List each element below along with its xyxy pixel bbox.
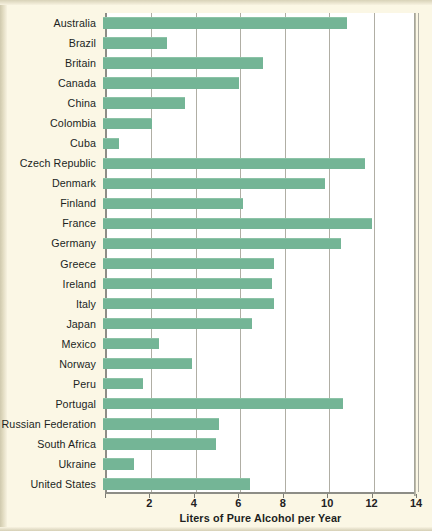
bar-row[interactable]: Peru xyxy=(0,374,432,394)
x-tick-label: 14 xyxy=(410,497,422,509)
bar-row[interactable]: France xyxy=(0,213,432,233)
bar[interactable] xyxy=(103,358,192,369)
bar-row[interactable]: South Africa xyxy=(0,434,432,454)
bar-track xyxy=(101,113,412,133)
x-tick-label: 8 xyxy=(280,497,286,509)
bar[interactable] xyxy=(103,37,167,48)
category-label: Mexico xyxy=(0,338,101,350)
bar-track xyxy=(101,274,412,294)
bar-row[interactable]: Greece xyxy=(0,254,432,274)
bar-row[interactable]: Denmark xyxy=(0,173,432,193)
bar[interactable] xyxy=(103,318,252,329)
category-label: Brazil xyxy=(0,37,101,49)
category-label: Canada xyxy=(0,77,101,89)
bar-track xyxy=(101,394,412,414)
horizontal-bar-chart: AustraliaBrazilBritainCanadaChinaColombi… xyxy=(0,0,432,531)
bar-track xyxy=(101,193,412,213)
x-tick-mark xyxy=(105,494,106,498)
category-label: Greece xyxy=(0,258,101,270)
bar-row[interactable]: Britain xyxy=(0,53,432,73)
category-label: Britain xyxy=(0,57,101,69)
bar-track xyxy=(101,474,412,494)
category-label: South Africa xyxy=(0,438,101,450)
bar-row[interactable]: Brazil xyxy=(0,33,432,53)
x-axis-title: Liters of Pure Alcohol per Year xyxy=(105,512,416,524)
category-label: Ukraine xyxy=(0,458,101,470)
category-label: Norway xyxy=(0,358,101,370)
bar[interactable] xyxy=(103,478,250,489)
bar-track xyxy=(101,374,412,394)
bar-row[interactable]: China xyxy=(0,93,432,113)
bar-track xyxy=(101,294,412,314)
category-label: Finland xyxy=(0,197,101,209)
bar-track xyxy=(101,73,412,93)
x-tick-label: 10 xyxy=(321,497,333,509)
category-label: Italy xyxy=(0,298,101,310)
bar-track xyxy=(101,454,412,474)
bar-row[interactable]: Australia xyxy=(0,13,432,33)
bar-track xyxy=(101,314,412,334)
bar[interactable] xyxy=(103,418,219,429)
bar[interactable] xyxy=(103,97,185,108)
category-label: Ireland xyxy=(0,278,101,290)
bar-track xyxy=(101,133,412,153)
bar-row[interactable]: Germany xyxy=(0,233,432,253)
bar-row[interactable]: Italy xyxy=(0,294,432,314)
bar[interactable] xyxy=(103,338,159,349)
category-label: Germany xyxy=(0,237,101,249)
bar[interactable] xyxy=(103,398,343,409)
category-label: Australia xyxy=(0,17,101,29)
bar-row[interactable]: Ireland xyxy=(0,274,432,294)
bar-row[interactable]: Portugal xyxy=(0,394,432,414)
bar[interactable] xyxy=(103,77,239,88)
bar[interactable] xyxy=(103,118,152,129)
bar-row[interactable]: Canada xyxy=(0,73,432,93)
x-tick-label: 2 xyxy=(146,497,152,509)
bar[interactable] xyxy=(103,258,274,269)
bar[interactable] xyxy=(103,17,347,28)
bar-track xyxy=(101,414,412,434)
bar-track xyxy=(101,13,412,33)
category-label: Cuba xyxy=(0,137,101,149)
category-label: Czech Republic xyxy=(0,157,101,169)
bar-row[interactable]: Mexico xyxy=(0,334,432,354)
bar[interactable] xyxy=(103,238,341,249)
category-label: Russian Federation xyxy=(0,418,101,430)
bar[interactable] xyxy=(103,458,134,469)
bar-track xyxy=(101,434,412,454)
bar[interactable] xyxy=(103,298,274,309)
bar-track xyxy=(101,233,412,253)
bar[interactable] xyxy=(103,158,365,169)
bar-track xyxy=(101,354,412,374)
bar-track xyxy=(101,53,412,73)
category-label: Japan xyxy=(0,318,101,330)
bar-track xyxy=(101,334,412,354)
bar-track xyxy=(101,213,412,233)
bar-row[interactable]: Czech Republic xyxy=(0,153,432,173)
bar[interactable] xyxy=(103,138,119,149)
bar-row[interactable]: Russian Federation xyxy=(0,414,432,434)
x-tick-label: 6 xyxy=(235,497,241,509)
bar-row[interactable]: Cuba xyxy=(0,133,432,153)
bar[interactable] xyxy=(103,57,263,68)
category-label: China xyxy=(0,97,101,109)
bar[interactable] xyxy=(103,218,372,229)
bar-rows: AustraliaBrazilBritainCanadaChinaColombi… xyxy=(0,0,432,531)
bar[interactable] xyxy=(103,378,143,389)
bar[interactable] xyxy=(103,438,216,449)
bar-row[interactable]: Japan xyxy=(0,314,432,334)
bar-track xyxy=(101,33,412,53)
bar[interactable] xyxy=(103,178,325,189)
bar-row[interactable]: Finland xyxy=(0,193,432,213)
bar-row[interactable]: Colombia xyxy=(0,113,432,133)
bar-row[interactable]: Ukraine xyxy=(0,454,432,474)
category-label: Denmark xyxy=(0,177,101,189)
bar-track xyxy=(101,254,412,274)
bar[interactable] xyxy=(103,198,243,209)
category-label: Peru xyxy=(0,378,101,390)
bar[interactable] xyxy=(103,278,272,289)
bar-row[interactable]: Norway xyxy=(0,354,432,374)
category-label: France xyxy=(0,217,101,229)
x-tick-label: 12 xyxy=(365,497,377,509)
bar-row[interactable]: United States xyxy=(0,474,432,494)
